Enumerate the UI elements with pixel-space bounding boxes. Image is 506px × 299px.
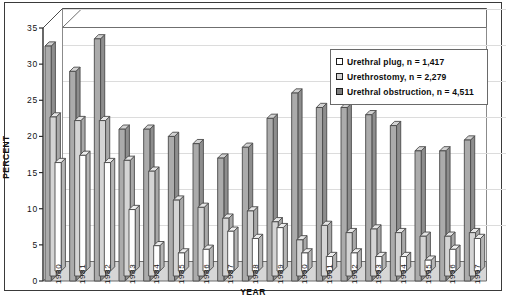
x-axis-tick-label: 1989 <box>276 264 285 284</box>
legend-item[interactable]: Urethral plug, n = 1,417 <box>336 54 482 69</box>
x-axis-tick-label: 1994 <box>399 264 408 284</box>
x-axis-tick-labels: 1980198119821983198419851986198719881989… <box>0 0 506 299</box>
x-axis-tick-label: 1982 <box>103 264 112 284</box>
x-axis-tick-label: 1997 <box>473 264 482 284</box>
x-axis-tick-label: 1992 <box>350 264 359 284</box>
x-axis-tick-label: 1993 <box>374 264 383 284</box>
x-axis-title: YEAR <box>0 287 506 297</box>
x-axis-tick-label: 1983 <box>128 264 137 284</box>
legend-item[interactable]: Urethral obstruction, n = 4,511 <box>336 84 482 99</box>
x-axis-tick-label: 1990 <box>300 264 309 284</box>
legend-label: Urethrostomy, n = 2,279 <box>347 72 446 82</box>
chart-figure: 05101520253035 1980198119821983198419851… <box>0 0 506 299</box>
x-axis-tick-label: 1991 <box>325 264 334 284</box>
y-axis-title: PERCENT <box>1 135 11 178</box>
legend-swatch-urethral-plug <box>336 58 343 65</box>
legend-swatch-urethral-obstruction <box>336 88 343 95</box>
x-axis-tick-label: 1984 <box>152 264 161 284</box>
legend: Urethral plug, n = 1,417 Urethrostomy, n… <box>330 49 488 105</box>
x-axis-tick-label: 1988 <box>251 264 260 284</box>
x-axis-tick-label: 1981 <box>78 264 87 284</box>
legend-item[interactable]: Urethrostomy, n = 2,279 <box>336 69 482 84</box>
x-axis-tick-label: 1987 <box>226 264 235 284</box>
x-axis-tick-label: 1995 <box>424 264 433 284</box>
legend-label: Urethral plug, n = 1,417 <box>347 57 444 67</box>
x-axis-tick-label: 1980 <box>54 264 63 284</box>
legend-swatch-urethrostomy <box>336 73 343 80</box>
x-axis-tick-label: 1986 <box>202 264 211 284</box>
x-axis-tick-label: 1996 <box>448 264 457 284</box>
legend-label: Urethral obstruction, n = 4,511 <box>347 87 474 97</box>
x-axis-tick-label: 1985 <box>177 264 186 284</box>
